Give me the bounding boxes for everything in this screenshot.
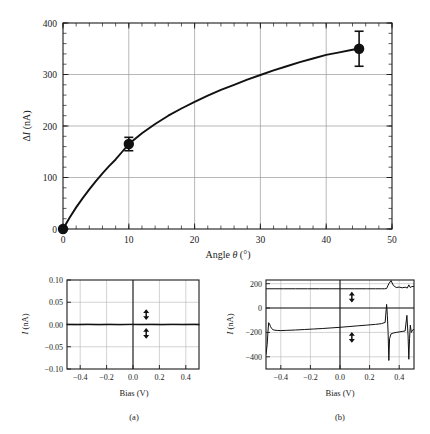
y-title-unit: (nA) bbox=[20, 313, 30, 331]
y-tick-label: 100 bbox=[43, 173, 58, 183]
y-tick-label: 0.10 bbox=[49, 276, 63, 285]
main-angle-chart-svg: 01020304050 0100200300400 Angle θ (°) ΔI… bbox=[0, 0, 430, 268]
y-tick-label: −0.05 bbox=[44, 343, 63, 352]
y-tick-label: 300 bbox=[43, 70, 58, 80]
x-tick-label: −0.2 bbox=[303, 373, 318, 382]
x-tick-label: 10 bbox=[124, 235, 134, 245]
x-tick-label: 0.4 bbox=[394, 373, 404, 382]
panel-a-svg: −0.4−0.20.00.20.4 −0.10−0.050.000.050.10… bbox=[0, 268, 215, 434]
x-tick-label: 20 bbox=[190, 235, 200, 245]
panel-b-tickmarks bbox=[266, 284, 399, 369]
main-chart-y-tick-labels: 0100200300400 bbox=[43, 19, 58, 235]
main-chart-x-tick-labels: 01020304050 bbox=[61, 235, 397, 245]
arrow-head-down bbox=[143, 335, 149, 339]
data-point-marker bbox=[58, 224, 68, 234]
arrow-head-down bbox=[349, 339, 355, 343]
panel-a-x-tick-labels: −0.4−0.20.00.20.4 bbox=[73, 373, 191, 382]
panel-a-caption: (a) bbox=[129, 412, 139, 422]
panel-a-y-axis-title: I (nA) bbox=[20, 313, 30, 335]
x-tick-label: 0.0 bbox=[335, 373, 345, 382]
x-tick-label: −0.4 bbox=[73, 373, 88, 382]
panel-b-y-tick-labels: −400−2000200 bbox=[245, 280, 262, 362]
main-angle-chart-panel: 01020304050 0100200300400 Angle θ (°) ΔI… bbox=[0, 0, 430, 268]
fit-curve-path bbox=[63, 49, 359, 229]
panel-b-svg: −0.4−0.20.00.20.4 −400−2000200 Bias (V) … bbox=[215, 268, 430, 434]
y-tick-label: 400 bbox=[43, 19, 58, 29]
arrow-head-up bbox=[349, 292, 355, 296]
x-tick-label: 0.0 bbox=[128, 373, 138, 382]
x-tick-label: −0.2 bbox=[99, 373, 114, 382]
main-chart-gridlines bbox=[63, 23, 392, 229]
main-chart-y-axis-title: ΔI (nA) bbox=[21, 110, 33, 141]
x-title-word: Angle bbox=[205, 249, 232, 260]
sweep-arrow-lower-icon bbox=[349, 332, 355, 343]
panel-a-iv-traces bbox=[67, 324, 199, 325]
main-chart-data-points bbox=[58, 31, 365, 234]
y-tick-label: 0 bbox=[258, 304, 262, 313]
figure-root: 01020304050 0100200300400 Angle θ (°) ΔI… bbox=[0, 0, 430, 434]
y-title-unit: (nA) bbox=[225, 313, 235, 331]
panel-a-x-axis-title: Bias (V) bbox=[119, 388, 148, 398]
y-tick-label: −200 bbox=[245, 328, 262, 337]
x-tick-label: −0.4 bbox=[274, 373, 289, 382]
panel-b-x-axis-title: Bias (V) bbox=[325, 388, 354, 398]
main-chart-x-axis-title: Angle θ (°) bbox=[205, 249, 250, 261]
x-tick-label: 40 bbox=[321, 235, 331, 245]
x-title-unit: (°) bbox=[237, 249, 250, 261]
panel-b-caption: (b) bbox=[335, 412, 345, 422]
sweep-arrow-upper-icon bbox=[349, 292, 355, 303]
y-tick-label: 0.05 bbox=[49, 298, 63, 307]
sweep-arrow-upper-icon bbox=[143, 309, 149, 320]
x-tick-label: 50 bbox=[387, 235, 397, 245]
panel-b-x-tick-labels: −0.4−0.20.00.20.4 bbox=[274, 373, 405, 382]
panel-a-y-tick-labels: −0.10−0.050.000.050.10 bbox=[44, 276, 63, 374]
y-tick-label: 200 bbox=[43, 122, 58, 132]
arrow-head-up bbox=[143, 309, 149, 313]
y-tick-label: −0.10 bbox=[44, 365, 63, 374]
y-tick-label: −400 bbox=[245, 353, 262, 362]
main-chart-fit-curve bbox=[63, 49, 359, 229]
arrow-head-down bbox=[349, 299, 355, 303]
data-point-marker bbox=[124, 139, 134, 149]
y-tick-label: 0 bbox=[52, 225, 57, 235]
y-title-unit: (nA) bbox=[21, 110, 33, 131]
sweep-arrow-lower-icon bbox=[143, 328, 149, 339]
panel-b-zero-axes bbox=[266, 280, 414, 369]
x-tick-label: 0 bbox=[61, 235, 66, 245]
panel-b: −0.4−0.20.00.20.4 −400−2000200 Bias (V) … bbox=[215, 268, 430, 434]
x-tick-label: 30 bbox=[256, 235, 266, 245]
y-tick-label: 200 bbox=[250, 280, 262, 289]
x-tick-label: 0.2 bbox=[154, 373, 164, 382]
panel-a: −0.4−0.20.00.20.4 −0.10−0.050.000.050.10… bbox=[0, 268, 215, 434]
y-tick-label: 0.00 bbox=[49, 321, 63, 330]
panel-b-sweep-arrows bbox=[349, 292, 355, 343]
arrow-head-down bbox=[143, 316, 149, 320]
data-point-marker bbox=[354, 44, 364, 54]
x-tick-label: 0.4 bbox=[181, 373, 191, 382]
panel-b-y-axis-title: I (nA) bbox=[225, 313, 235, 335]
x-tick-label: 0.2 bbox=[365, 373, 375, 382]
arrow-head-up bbox=[143, 328, 149, 332]
